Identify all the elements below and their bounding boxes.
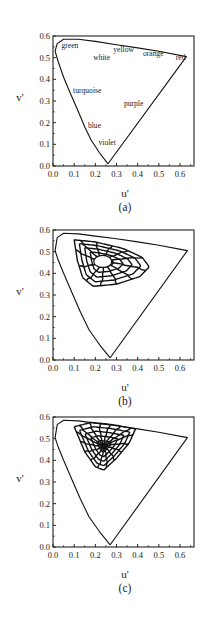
chromaticity-chart-c: 0.00.10.20.30.40.50.60.00.10.20.30.40.50… <box>0 381 204 611</box>
y-tick-label: 0.4 <box>39 268 50 278</box>
color-web-grid <box>74 422 135 469</box>
y-tick-label: 0.1 <box>39 333 50 343</box>
y-tick-label: 0.6 <box>39 31 50 41</box>
y-tick-label: 0.6 <box>39 412 50 422</box>
color-name-label: violet <box>99 138 117 147</box>
y-tick-label: 0.1 <box>39 139 50 149</box>
y-tick-label: 0.3 <box>39 290 50 300</box>
spectrum-locus-line <box>55 39 186 164</box>
y-axis-label: v' <box>16 91 24 103</box>
x-tick-label: 0.5 <box>154 363 165 373</box>
y-tick-label: 0.3 <box>39 477 50 487</box>
x-tick-label: 0.4 <box>132 363 143 373</box>
x-tick-label: 0.1 <box>69 363 80 373</box>
chart-panel-a: 0.00.10.20.30.40.50.60.00.10.20.30.40.50… <box>0 0 204 215</box>
color-name-label: purple <box>124 99 144 108</box>
x-tick-label: 0.6 <box>175 550 186 560</box>
chart-panel-b: 0.00.10.20.30.40.50.60.00.10.20.30.40.50… <box>0 194 204 409</box>
color-name-label: yellow <box>113 45 134 54</box>
y-tick-label: 0.3 <box>39 96 50 106</box>
x-tick-label: 0.2 <box>90 169 101 179</box>
y-tick-label: 0.4 <box>39 74 50 84</box>
x-tick-label: 0.4 <box>132 550 143 560</box>
web-center-hole <box>94 255 112 267</box>
y-tick-label: 0.1 <box>39 520 50 530</box>
color-name-label: red <box>176 53 186 62</box>
x-tick-label: 0.1 <box>69 550 80 560</box>
panel-label: (c) <box>119 582 132 595</box>
y-tick-label: 0.5 <box>39 434 50 444</box>
y-tick-label: 0.2 <box>39 312 50 322</box>
x-tick-label: 0.6 <box>175 169 186 179</box>
color-web-grid <box>74 240 149 287</box>
x-tick-label: 0.5 <box>154 169 165 179</box>
x-tick-label: 0.2 <box>90 363 101 373</box>
chromaticity-chart-b: 0.00.10.20.30.40.50.60.00.10.20.30.40.50… <box>0 194 204 409</box>
chart-panel-c: 0.00.10.20.30.40.50.60.00.10.20.30.40.50… <box>0 381 204 611</box>
y-tick-label: 0.2 <box>39 118 50 128</box>
x-tick-label: 0.5 <box>154 550 165 560</box>
x-tick-label: 0.4 <box>132 169 143 179</box>
x-tick-label: 0.0 <box>48 550 59 560</box>
color-name-label: green <box>61 41 78 50</box>
x-tick-label: 0.0 <box>48 169 59 179</box>
color-name-label: turquoise <box>73 86 102 95</box>
x-tick-label: 0.6 <box>175 363 186 373</box>
y-tick-label: 0.5 <box>39 53 50 63</box>
x-tick-label: 0.2 <box>90 550 101 560</box>
y-tick-label: 0.4 <box>39 455 50 465</box>
x-tick-label: 0.3 <box>111 363 122 373</box>
web-center-dot <box>101 444 106 449</box>
y-axis-label: v' <box>16 285 24 297</box>
x-axis-label: u' <box>121 568 129 580</box>
y-tick-label: 0.6 <box>39 225 50 235</box>
chromaticity-chart-a: 0.00.10.20.30.40.50.60.00.10.20.30.40.50… <box>0 0 204 215</box>
y-tick-label: 0.2 <box>39 499 50 509</box>
color-name-label: blue <box>88 121 102 130</box>
x-tick-label: 0.3 <box>111 169 122 179</box>
x-tick-label: 0.0 <box>48 363 59 373</box>
color-name-label: orange <box>143 49 164 58</box>
x-tick-label: 0.1 <box>69 169 80 179</box>
color-name-label: white <box>93 53 111 62</box>
y-axis-label: v' <box>16 472 24 484</box>
x-tick-label: 0.3 <box>111 550 122 560</box>
y-tick-label: 0.5 <box>39 247 50 257</box>
